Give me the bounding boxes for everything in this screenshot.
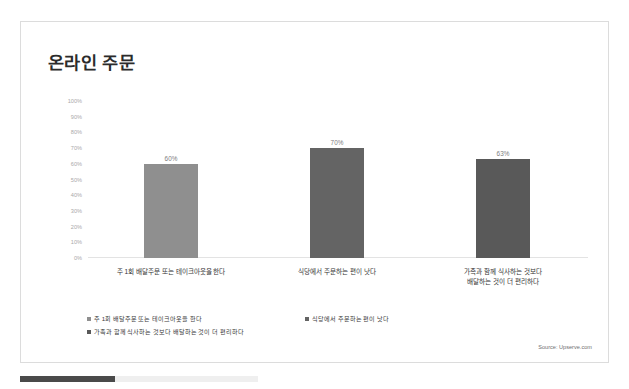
bar-chart: 100% 90% 80% 70% 60% 50% 40% 30% 20% 10%…	[48, 101, 588, 266]
y-axis-tick: 40%	[48, 192, 82, 198]
source-note: Source: Upserve.com	[538, 344, 592, 350]
bar-value-label: 60%	[165, 155, 178, 162]
y-axis-tick: 0%	[48, 255, 82, 261]
legend-swatch-icon	[87, 330, 91, 334]
legend-item[interactable]: 가족과 함께 식사하는 것보다 배달하는 것이 더 편리하다	[87, 327, 244, 336]
legend-item-label: 주 1회 배달주문 또는 테이크아웃을 한다	[94, 314, 202, 323]
legend-item-label: 식당에서 주문하는 편이 낫다	[312, 314, 389, 323]
slide-card: 온라인 주문 100% 90% 80% 70% 60% 50% 40% 30% …	[20, 21, 609, 363]
bar-group: 60%	[88, 101, 254, 258]
bar[interactable]	[476, 159, 530, 258]
x-axis-category-label: 식당에서 주문하는 편이 낫다	[254, 267, 420, 277]
y-axis-tick: 10%	[48, 239, 82, 245]
y-axis-tick: 90%	[48, 114, 82, 120]
x-axis-labels: 주 1회 배달주문 또는 테이크아웃을 한다 식당에서 주문하는 편이 낫다 가…	[88, 267, 586, 293]
bar[interactable]	[144, 164, 198, 258]
x-axis-category-label: 가족과 함께 식사하는 것보다 배달하는 것이 더 편리하다	[420, 267, 586, 286]
chart-legend: 주 1회 배달주문 또는 테이크아웃을 한다 식당에서 주문하는 편이 낫다 가…	[87, 314, 557, 344]
bottom-progress-fill	[20, 376, 115, 382]
y-axis-tick: 100%	[48, 98, 82, 104]
y-axis-tick: 80%	[48, 129, 82, 135]
y-axis-tick: 20%	[48, 224, 82, 230]
y-axis-tick: 30%	[48, 208, 82, 214]
page-title: 온라인 주문	[48, 49, 135, 74]
x-axis-category-label: 주 1회 배달주문 또는 테이크아웃을 한다	[88, 267, 254, 277]
legend-swatch-icon	[305, 317, 309, 321]
y-axis: 100% 90% 80% 70% 60% 50% 40% 30% 20% 10%…	[48, 101, 82, 258]
bar-value-label: 70%	[331, 139, 344, 146]
y-axis-tick: 70%	[48, 145, 82, 151]
bar[interactable]	[310, 148, 364, 258]
legend-item-label: 가족과 함께 식사하는 것보다 배달하는 것이 더 편리하다	[94, 327, 244, 336]
legend-swatch-icon	[87, 317, 91, 321]
legend-item[interactable]: 식당에서 주문하는 편이 낫다	[305, 314, 389, 323]
bottom-progress-bar[interactable]	[20, 376, 258, 382]
bar-group: 63%	[420, 101, 586, 258]
plot-area: 60% 70% 63%	[88, 101, 588, 258]
y-axis-tick: 50%	[48, 177, 82, 183]
bar-group: 70%	[254, 101, 420, 258]
bar-value-label: 63%	[497, 150, 510, 157]
y-axis-tick: 60%	[48, 161, 82, 167]
legend-item[interactable]: 주 1회 배달주문 또는 테이크아웃을 한다	[87, 314, 202, 323]
